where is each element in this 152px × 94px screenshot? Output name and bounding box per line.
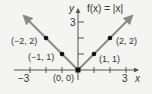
point-label-neg2: (−2, 2) [11, 37, 37, 46]
x-tick-label-neg3: −3 [18, 74, 29, 84]
point-label-2: (2, 2) [116, 37, 137, 46]
y-axis-label: y [69, 4, 74, 14]
x-axis-label: x [135, 74, 140, 84]
chart-title: f(x) = |x| [87, 4, 123, 14]
y-ticks [78, 22, 84, 54]
point-label-1: (1, 1) [99, 55, 120, 64]
point-label-origin: (0, 0) [53, 74, 74, 83]
x-tick-label-3: 3 [122, 74, 128, 84]
point-label-neg1: (−1, 1) [28, 53, 54, 62]
y-tick-label-3: 3 [70, 18, 76, 28]
